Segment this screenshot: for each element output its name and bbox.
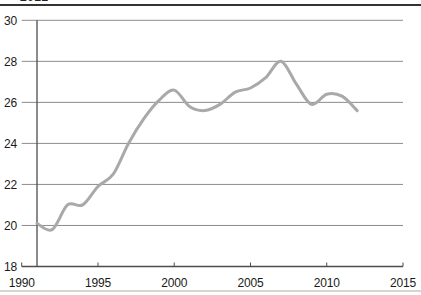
footer-separator-rule — [0, 290, 421, 292]
y-tick-label-18: 18 — [4, 260, 17, 274]
x-tick-label-2010: 2010 — [314, 276, 340, 290]
data-series-line — [37, 61, 357, 230]
x-tick-label-2000: 2000 — [161, 276, 187, 290]
line-chart: 19901995200020052010201518202224262830 — [0, 0, 421, 295]
y-tick-label-26: 26 — [4, 96, 17, 110]
y-tick-label-20: 20 — [4, 219, 17, 233]
report-chart-page: 2012 19901995200020052010201518202224262… — [0, 0, 421, 295]
y-tick-label-24: 24 — [4, 137, 17, 151]
x-tick-label-2005: 2005 — [238, 276, 264, 290]
y-tick-label-22: 22 — [4, 178, 17, 192]
x-tick-label-1990: 1990 — [9, 276, 35, 290]
y-tick-label-28: 28 — [4, 55, 17, 69]
x-tick-label-1995: 1995 — [85, 276, 111, 290]
y-tick-label-30: 30 — [4, 14, 17, 28]
x-tick-label-2015: 2015 — [390, 276, 416, 290]
